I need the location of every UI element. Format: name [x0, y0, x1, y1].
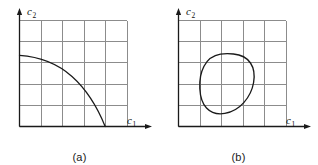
panel-b: c 2 c 1 (b): [159, 0, 318, 165]
caption-panel-b: (b): [159, 151, 318, 163]
x-axis-arrow: [145, 124, 152, 129]
y-axis-arrow: [17, 8, 22, 15]
svg-text:c: c: [286, 114, 291, 126]
y-axis-label-panel-a: c 2: [27, 5, 37, 20]
y-axis-arrow: [176, 8, 181, 15]
y-axis-label-panel-b: c 2: [186, 5, 196, 20]
panel-a: c 2 c 1 (a): [0, 0, 159, 165]
two-panel-figure: c 2 c 1 (a): [0, 0, 318, 165]
svg-text:2: 2: [192, 11, 196, 20]
svg-text:c: c: [27, 5, 32, 17]
svg-text:2: 2: [33, 11, 37, 20]
svg-text:1: 1: [292, 120, 296, 129]
svg-text:c: c: [127, 114, 132, 126]
caption-panel-a: (a): [0, 151, 159, 163]
svg-text:1: 1: [133, 120, 137, 129]
x-axis-arrow: [304, 124, 311, 129]
grid-panel-a: [20, 21, 128, 127]
svg-text:c: c: [186, 5, 191, 17]
